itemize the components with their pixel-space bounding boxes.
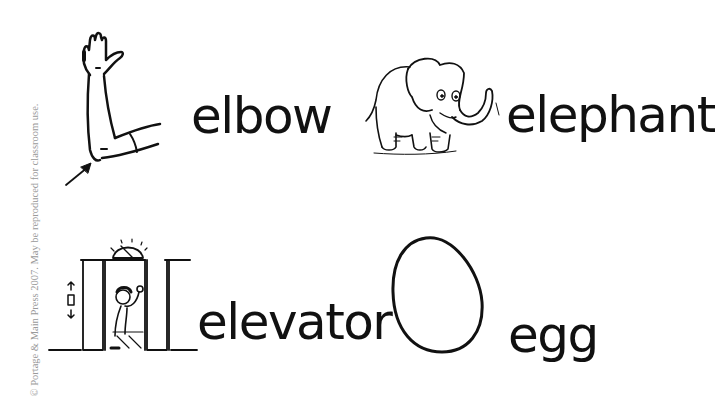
word-elephant: elephant	[506, 90, 715, 140]
word-egg: egg	[508, 310, 598, 360]
word-elbow: elbow	[191, 91, 331, 141]
egg-icon	[388, 232, 488, 357]
word-elevator: elevator	[197, 297, 391, 347]
elephant-icon	[360, 55, 500, 160]
copyright-notice: © Portage & Main Press 2007. May be repr…	[29, 104, 40, 396]
arm-elbow-icon	[60, 30, 170, 190]
elevator-icon	[45, 236, 205, 356]
